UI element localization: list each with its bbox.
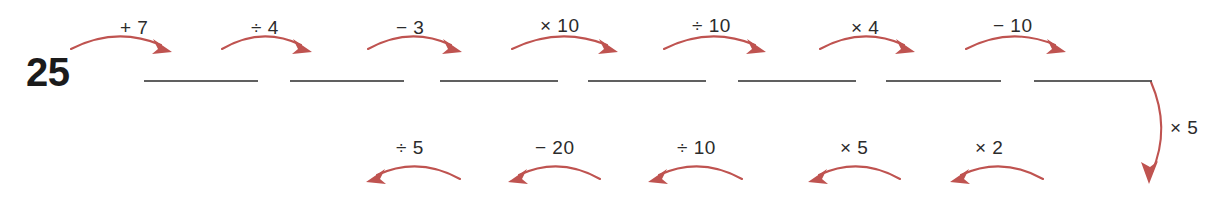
top-operation-label-6: − 10 <box>993 16 1033 35</box>
arrow-minus-10 <box>966 36 1066 54</box>
arrow-divide-10-back <box>648 166 742 184</box>
arrow-times-5-down <box>1141 82 1161 184</box>
arrow-minus-20-back <box>508 166 600 184</box>
answer-blank-2[interactable] <box>440 80 558 82</box>
bottom-operation-label-4: × 2 <box>975 138 1003 157</box>
top-arrow-group <box>71 36 1066 54</box>
arrow-plus-7 <box>71 36 172 54</box>
side-arrow-group <box>1141 82 1161 184</box>
top-operation-label-4: ÷ 10 <box>692 16 731 35</box>
worksheet-vector-layer <box>0 0 1227 197</box>
bottom-operation-label-0: ÷ 5 <box>396 138 424 157</box>
top-operation-label-5: × 4 <box>851 18 879 37</box>
arrow-chain-worksheet: 25 + 7÷ 4− 3× 10÷ 10× 4− 10 ÷ 5− 20÷ 10×… <box>0 0 1227 197</box>
arrow-minus-3 <box>368 36 462 54</box>
answer-blank-0[interactable] <box>144 80 258 82</box>
answer-blank-6[interactable] <box>1034 80 1152 82</box>
start-value: 25 <box>26 52 70 92</box>
side-operation-label: × 5 <box>1170 118 1198 137</box>
bottom-operation-label-3: × 5 <box>840 138 868 157</box>
bottom-arrow-group <box>366 166 1043 184</box>
arrow-divide-10 <box>664 36 766 54</box>
top-operation-label-3: × 10 <box>540 16 580 35</box>
top-operation-label-0: + 7 <box>120 18 148 37</box>
answer-blank-4[interactable] <box>738 80 856 82</box>
arrow-times-5-back <box>808 166 900 184</box>
answer-blank-3[interactable] <box>588 80 706 82</box>
bottom-operation-label-1: − 20 <box>535 138 575 157</box>
arrow-times-10 <box>512 36 618 54</box>
arrow-times-4 <box>820 36 915 54</box>
arrow-times-2-back <box>950 166 1043 184</box>
arrow-divide-5-back <box>366 166 460 184</box>
answer-blank-1[interactable] <box>290 80 404 82</box>
answer-blank-5[interactable] <box>886 80 1001 82</box>
arrow-divide-4 <box>222 36 312 54</box>
top-operation-label-1: ÷ 4 <box>251 18 279 37</box>
bottom-operation-label-2: ÷ 10 <box>677 138 716 157</box>
top-operation-label-2: − 3 <box>396 18 424 37</box>
